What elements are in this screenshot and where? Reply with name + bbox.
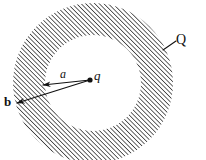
outer-radius-label: b xyxy=(4,95,11,108)
point-charge-label: q xyxy=(94,69,101,82)
figure-canvas: Q q a b xyxy=(0,0,206,160)
shell-charge-label: Q xyxy=(176,33,186,47)
shell-hatching xyxy=(0,0,206,160)
shell-annulus xyxy=(0,0,206,160)
point-charge-dot xyxy=(87,77,92,82)
inner-radius-label: a xyxy=(60,68,66,80)
shell-diagram-svg xyxy=(0,0,206,160)
